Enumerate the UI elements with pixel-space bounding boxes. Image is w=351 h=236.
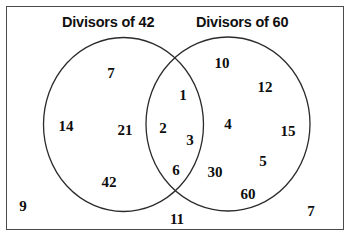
right-only-5: 5 <box>259 153 267 170</box>
venn-circles <box>0 0 351 236</box>
right-only-15: 15 <box>281 123 296 140</box>
venn-diagram-figure: Divisors of 42 Divisors of 60 7142142123… <box>0 0 351 236</box>
outside-11: 11 <box>170 211 184 228</box>
intersection-3: 3 <box>186 132 194 149</box>
right-only-4: 4 <box>224 116 232 133</box>
outside-9: 9 <box>19 198 27 215</box>
right-only-12: 12 <box>258 79 273 96</box>
right-only-10: 10 <box>215 55 230 72</box>
intersection-6: 6 <box>172 162 180 179</box>
intersection-2: 2 <box>159 120 167 137</box>
set-label-left: Divisors of 42 <box>62 14 154 30</box>
right-only-60: 60 <box>241 186 256 203</box>
left-only-14: 14 <box>59 118 74 135</box>
outside-7: 7 <box>307 203 315 220</box>
set-label-right: Divisors of 60 <box>196 14 288 30</box>
right-only-30: 30 <box>208 164 223 181</box>
left-only-21: 21 <box>118 122 133 139</box>
left-only-42: 42 <box>102 174 117 191</box>
intersection-1: 1 <box>179 87 187 104</box>
left-only-7: 7 <box>107 65 115 82</box>
